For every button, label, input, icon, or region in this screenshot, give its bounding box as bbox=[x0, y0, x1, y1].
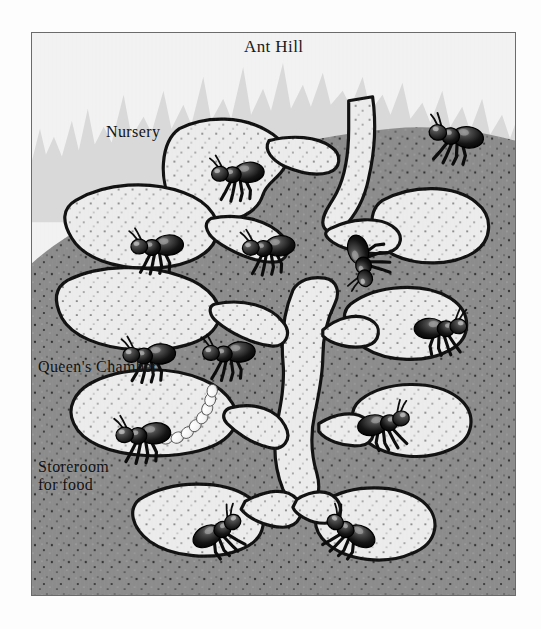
label-nursery: Nursery bbox=[106, 123, 160, 141]
label-storeroom-for-food: Storeroom for food bbox=[38, 458, 109, 494]
label-ant-hill: Ant Hill bbox=[244, 37, 303, 56]
label-queens-chamber: Queen's Chamber bbox=[38, 358, 158, 376]
page-root: Ant Hill Nursery Queen's Chamber Storero… bbox=[0, 0, 541, 629]
ant-hill-svg bbox=[32, 33, 515, 595]
ant-hill-illustration: Ant Hill Nursery Queen's Chamber Storero… bbox=[31, 32, 516, 596]
chamber-upper-left bbox=[65, 185, 218, 268]
